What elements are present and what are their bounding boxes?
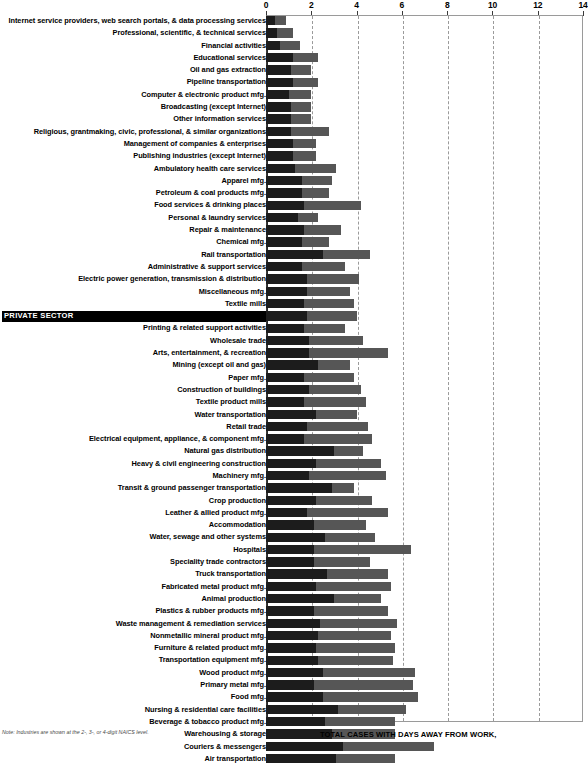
bar-row: Nursing & residential care facilities (0, 704, 588, 716)
bar-segment-job-transfer (302, 188, 329, 197)
category-label: Truck transportation (195, 568, 266, 580)
category-label: Textile product mills (196, 396, 266, 408)
x-axis-tick-10: 10 (488, 0, 497, 10)
bar-segment-job-transfer (304, 225, 340, 234)
category-label: Couriers & messengers (184, 741, 266, 753)
chart-note: Note: Industries are shown at the 2-, 3-… (2, 729, 149, 735)
bar-segment-total-cases (266, 139, 293, 148)
bar-segment-total-cases (266, 299, 304, 308)
bar-row: Natural gas distribution (0, 445, 588, 457)
bar-segment-total-cases (266, 520, 314, 529)
bar-segment-job-transfer (325, 717, 395, 726)
category-label: PRIVATE SECTOR (4, 310, 74, 322)
bar-row: Transit & ground passenger transportatio… (0, 482, 588, 494)
bar-segment-job-transfer (316, 582, 391, 591)
bar-segment-total-cases (266, 754, 336, 763)
bar-row: Chemical mfg. (0, 236, 588, 248)
bar-row: Educational services (0, 52, 588, 64)
stacked-bar (266, 483, 354, 492)
x-axis-tick-14: 14 (578, 0, 587, 10)
bar-segment-total-cases (266, 373, 304, 382)
bar-segment-job-transfer (323, 668, 416, 677)
bar-segment-total-cases (266, 188, 302, 197)
category-label: Hospitals (233, 544, 266, 556)
bar-segment-total-cases (266, 397, 304, 406)
bar-row: Heavy & civil engineering construction (0, 458, 588, 470)
category-label: Petroleum & coal products mfg. (156, 187, 266, 199)
stacked-bar (266, 668, 415, 677)
category-label: Arts, entertainment, & recreation (153, 347, 266, 359)
bar-segment-total-cases (266, 533, 325, 542)
bar-segment-job-transfer (295, 164, 336, 173)
bar-row: Rail transportation (0, 249, 588, 261)
bar-segment-total-cases (266, 569, 327, 578)
bar-row: Religious, grantmaking, civic, professio… (0, 126, 588, 138)
category-label: Apparel mfg. (221, 175, 266, 187)
bar-segment-total-cases (266, 459, 316, 468)
category-label: Wood product mfg. (199, 667, 266, 679)
bar-segment-job-transfer (307, 311, 357, 320)
stacked-bar (266, 139, 316, 148)
bar-segment-job-transfer (332, 483, 355, 492)
stacked-bar (266, 656, 393, 665)
category-label: Pipeline transportation (187, 76, 266, 88)
bar-segment-total-cases (266, 102, 291, 111)
bar-row: Nonmetallic mineral product mfg. (0, 630, 588, 642)
category-label: Transportation equipment mfg. (159, 654, 266, 666)
bar-row: Ambulatory health care services (0, 163, 588, 175)
stacked-bar (266, 176, 332, 185)
stacked-bar (266, 262, 345, 271)
bar-segment-job-transfer (302, 176, 331, 185)
category-label: Repair & maintenance (189, 224, 266, 236)
stacked-bar (266, 188, 329, 197)
stacked-bar (266, 705, 406, 714)
category-label: Speciality trade contractors (170, 556, 266, 568)
bar-segment-total-cases (266, 360, 318, 369)
category-label: Other information services (173, 113, 266, 125)
bar-row: Administrative & support services (0, 261, 588, 273)
stacked-bar (266, 643, 395, 652)
bar-row: Miscellaneous mfg. (0, 286, 588, 298)
stacked-bar (266, 742, 434, 751)
bar-row: Mining (except oil and gas) (0, 359, 588, 371)
bar-segment-job-transfer (302, 262, 345, 271)
bar-row: Furniture & related product mfg. (0, 642, 588, 654)
bar-row: Crop production (0, 495, 588, 507)
bar-segment-job-transfer (327, 569, 388, 578)
bar-row: Truck transportation (0, 568, 588, 580)
category-label: Personal & laundry services (168, 212, 266, 224)
stacked-bar (266, 471, 386, 480)
stacked-bar (266, 434, 372, 443)
category-label: Mining (except oil and gas) (172, 359, 266, 371)
stacked-bar (266, 336, 363, 345)
stacked-bar (266, 557, 370, 566)
bar-segment-job-transfer (318, 631, 390, 640)
bar-segment-total-cases (266, 705, 338, 714)
bar-segment-total-cases (266, 471, 309, 480)
x-axis-tick-12: 12 (533, 0, 542, 10)
bar-segment-total-cases (266, 631, 318, 640)
bar-segment-total-cases (266, 336, 309, 345)
bar-segment-total-cases (266, 656, 318, 665)
bar-row: Internet service providers, web search p… (0, 15, 588, 27)
bar-row: Electric power generation, transmission … (0, 273, 588, 285)
bar-segment-job-transfer (304, 299, 354, 308)
stacked-bar (266, 16, 286, 25)
bar-row: Air transportation (0, 753, 588, 765)
bar-segment-job-transfer (293, 78, 318, 87)
category-label: Furniture & related product mfg. (154, 642, 266, 654)
x-axis: 02468101214 (266, 0, 583, 14)
bar-segment-job-transfer (318, 360, 350, 369)
stacked-bar (266, 545, 411, 554)
bar-row: Accommodation (0, 519, 588, 531)
stacked-bar (266, 114, 311, 123)
stacked-bar (266, 164, 336, 173)
bar-segment-job-transfer (316, 410, 357, 419)
bar-segment-total-cases (266, 262, 302, 271)
bar-row-highlight: PRIVATE SECTOR (0, 310, 588, 322)
bar-segment-job-transfer (320, 619, 397, 628)
bar-row: Printing & related support activities (0, 322, 588, 334)
bar-segment-total-cases (266, 164, 295, 173)
bar-segment-total-cases (266, 78, 293, 87)
bar-segment-total-cases (266, 213, 298, 222)
